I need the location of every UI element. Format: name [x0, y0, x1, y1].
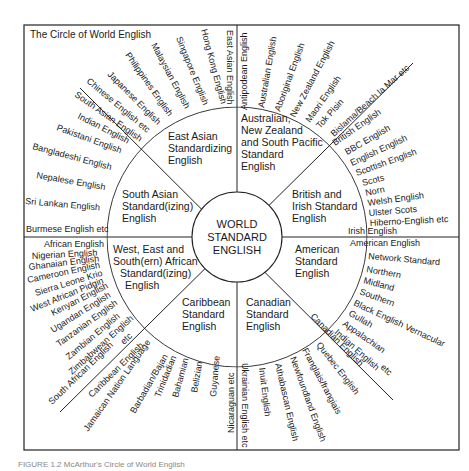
region-african: West, East and South(ern) African Standa…	[113, 243, 198, 291]
region-east-asian: East Asian Standardizing English	[168, 130, 232, 166]
svg-text:Network Standard: Network Standard	[368, 251, 441, 267]
diagram-title: The Circle of World English	[30, 29, 151, 40]
svg-text:WORLD: WORLD	[217, 218, 258, 230]
svg-text:Sri Lankan English: Sri Lankan English	[25, 196, 101, 213]
svg-text:Irish Standard: Irish Standard	[292, 200, 358, 212]
region-caribbean: Caribbean Standard English	[182, 296, 231, 332]
svg-text:Canadian: Canadian	[246, 296, 291, 308]
svg-text:Standard: Standard	[182, 308, 225, 320]
svg-text:South Asian: South Asian	[122, 188, 178, 200]
svg-text:STANDARD: STANDARD	[207, 231, 267, 243]
svg-text:and South Pacific: and South Pacific	[241, 136, 323, 148]
svg-text:English: English	[292, 212, 327, 224]
svg-text:Australian English: Australian English	[256, 36, 278, 109]
svg-text:Standard: Standard	[295, 255, 338, 267]
region-american: American Standard English	[295, 243, 340, 279]
svg-text:Belizian: Belizian	[189, 361, 204, 394]
svg-text:English: English	[125, 279, 160, 291]
svg-text:Standardizing: Standardizing	[168, 142, 232, 154]
svg-text:East Asian: East Asian	[168, 130, 218, 142]
svg-text:Guyanese: Guyanese	[208, 355, 222, 397]
svg-text:Standard(izing): Standard(izing)	[120, 267, 191, 279]
svg-text:English: English	[246, 320, 281, 332]
svg-text:British and: British and	[292, 188, 342, 200]
region-british: British and Irish Standard English	[292, 188, 358, 224]
svg-text:Nepalese English: Nepalese English	[36, 170, 107, 192]
svg-text:Inuit English: Inuit English	[257, 367, 273, 417]
region-south-asian: South Asian Standard(izing) English	[122, 188, 193, 224]
svg-text:South(ern) African: South(ern) African	[113, 255, 198, 267]
svg-text:Standard: Standard	[241, 148, 284, 160]
svg-text:New Zealand: New Zealand	[241, 124, 303, 136]
svg-text:West, East and: West, East and	[113, 243, 184, 255]
svg-text:Burmese English etc: Burmese English etc	[26, 224, 109, 234]
svg-text:English: English	[295, 267, 330, 279]
region-canadian: Canadian Standard English	[246, 296, 291, 332]
world-english-circle-diagram: The Circle of World English WORLD STANDA…	[0, 0, 469, 471]
svg-text:Irish English: Irish English	[348, 226, 397, 236]
svg-text:Australian,: Australian,	[241, 112, 291, 124]
svg-text:Nicaraguan etc: Nicaraguan etc	[226, 372, 236, 433]
svg-text:English: English	[182, 320, 217, 332]
figure-caption: FIGURE 1.2 McArthur's Circle of World En…	[18, 460, 185, 469]
svg-text:ENGLISH: ENGLISH	[213, 244, 261, 256]
svg-text:English: English	[241, 160, 276, 172]
svg-text:Standard: Standard	[246, 308, 289, 320]
svg-text:American English: American English	[350, 238, 420, 248]
svg-text:English: English	[122, 212, 157, 224]
svg-text:English: English	[168, 154, 203, 166]
varieties-british: British English BBC English English Engl…	[330, 107, 449, 236]
svg-text:American: American	[295, 243, 340, 255]
svg-text:Ukrainian English etc: Ukrainian English etc	[240, 363, 250, 448]
svg-text:Antipodean English: Antipodean English	[239, 32, 249, 110]
svg-text:Caribbean: Caribbean	[182, 296, 231, 308]
svg-text:Standard(izing): Standard(izing)	[122, 200, 193, 212]
